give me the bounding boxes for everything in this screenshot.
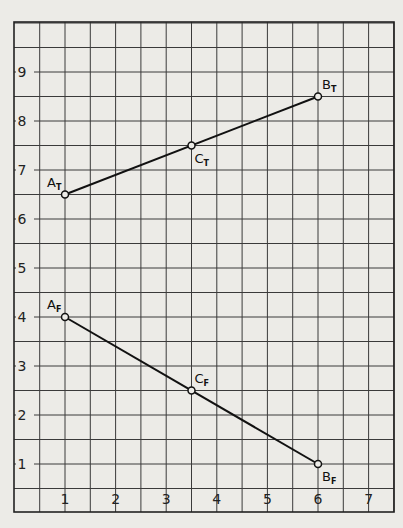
point-label: BF (322, 469, 336, 486)
point-label: BT (322, 77, 337, 94)
axis-ticks: 1234567123456789 (16, 63, 373, 507)
point-marker (188, 387, 195, 394)
y-tick-label: 6 (18, 211, 27, 227)
point-label: CF (195, 371, 210, 388)
x-tick-label: 3 (162, 491, 171, 507)
x-tick-label: 5 (263, 491, 272, 507)
point-marker (315, 93, 322, 100)
point-label: AF (47, 297, 61, 314)
point-marker (62, 191, 69, 198)
y-tick-label: 7 (18, 162, 27, 178)
x-tick-label: 1 (61, 491, 70, 507)
x-tick-label: 6 (314, 491, 323, 507)
grid-frame (14, 22, 394, 512)
y-tick-label: 9 (18, 64, 27, 80)
x-tick-label: 4 (212, 491, 221, 507)
x-tick-label: 2 (111, 491, 120, 507)
y-tick-label: 5 (18, 260, 27, 276)
y-tick-label: 2 (18, 407, 27, 423)
grid-lines (14, 22, 394, 512)
point-marker (188, 142, 195, 149)
point-marker (62, 314, 69, 321)
point-label: CT (195, 151, 210, 168)
point-marker (315, 461, 322, 468)
y-tick-label: 8 (18, 113, 27, 129)
x-tick-label: 7 (364, 491, 373, 507)
y-tick-label: 3 (18, 358, 27, 374)
y-tick-label: 1 (18, 456, 27, 472)
y-tick-label: 4 (18, 309, 27, 325)
grid-diagram: 1234567123456789 ATCTBTAFCFBF (0, 0, 403, 528)
point-label: AT (47, 175, 62, 192)
